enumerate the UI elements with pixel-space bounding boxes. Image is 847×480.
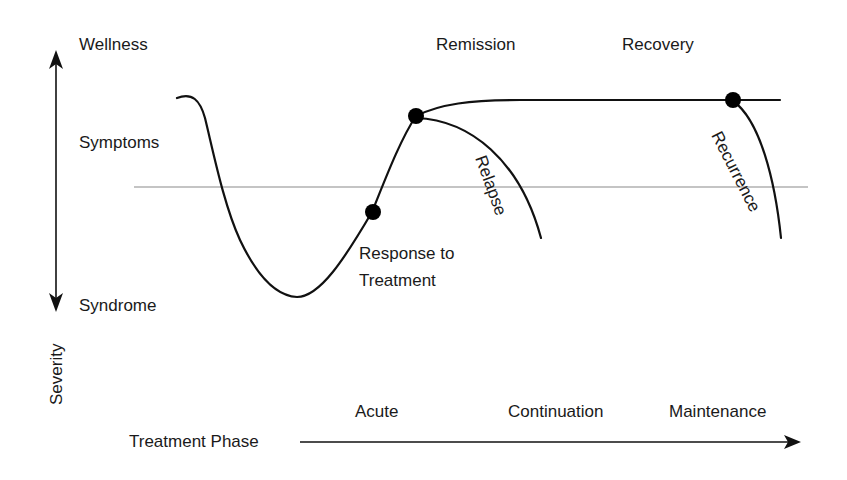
severity-axis-label: Severity [47, 343, 66, 405]
symptoms-label: Symptoms [79, 133, 159, 152]
response-point [365, 204, 381, 220]
phase-continuation-label: Continuation [508, 402, 603, 421]
illness-course-curve [177, 96, 416, 297]
remission-label: Remission [436, 35, 515, 54]
response-label-line2: Treatment [359, 271, 436, 290]
phase-acute-label: Acute [355, 402, 398, 421]
recovery-label: Recovery [622, 35, 694, 54]
syndrome-label: Syndrome [79, 296, 156, 315]
severity-axis-arrow [49, 50, 63, 312]
response-label-line1: Response to [359, 244, 454, 263]
treatment-phase-axis-label: Treatment Phase [129, 432, 259, 451]
remission-point [408, 108, 424, 124]
recovery-point [725, 92, 741, 108]
treatment-phase-diagram: Wellness Symptoms Syndrome Severity Remi… [0, 0, 847, 480]
phase-maintenance-label: Maintenance [669, 402, 766, 421]
wellness-label: Wellness [79, 35, 148, 54]
recurrence-label: Recurrence [707, 128, 764, 215]
